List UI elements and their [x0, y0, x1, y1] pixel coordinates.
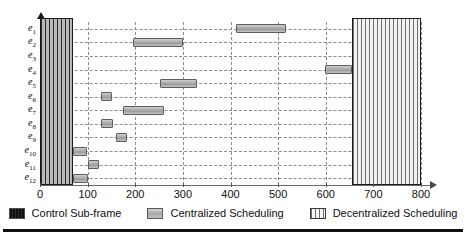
centralized-scheduling-bar — [101, 92, 112, 101]
plot-area — [40, 22, 421, 185]
control-subframe-block — [40, 18, 73, 185]
legend-item: Decentralized Scheduling — [310, 207, 458, 219]
x-axis-tick-label: 700 — [364, 188, 382, 200]
gantt-chart-figure: e1e2e3e4e5e6e7e8e9e10e11e12 010020030040… — [0, 0, 466, 236]
x-axis-tick-mark — [373, 183, 374, 187]
x-axis-tick-mark — [183, 183, 184, 187]
legend-item: Control Sub-frame — [9, 207, 122, 219]
grid-line-vertical — [326, 22, 327, 185]
x-axis-tick-mark — [326, 183, 327, 187]
grid-line-vertical — [278, 22, 279, 185]
x-axis-tick-mark — [421, 183, 422, 187]
y-axis-label-e12: e12 — [25, 172, 36, 186]
bottom-rule — [3, 229, 463, 232]
x-axis-tick-mark — [135, 183, 136, 187]
chart-legend: Control Sub-frameCentralized SchedulingD… — [0, 203, 466, 223]
centralized-scheduling-bar — [123, 106, 163, 115]
centralized-scheduling-bar — [88, 160, 99, 169]
x-axis-tick-mark — [88, 183, 89, 187]
x-axis-tick-label: 300 — [174, 188, 192, 200]
x-axis-tick-label: 0 — [37, 188, 43, 200]
centralized-swatch-icon — [147, 208, 163, 219]
control-swatch-icon — [9, 208, 25, 219]
x-axis-tick-label: 600 — [317, 188, 335, 200]
x-axis-tick-label: 200 — [126, 188, 144, 200]
centralized-scheduling-bar — [160, 79, 197, 88]
centralized-scheduling-bar — [116, 133, 127, 142]
centralized-scheduling-bar — [133, 38, 183, 47]
x-axis-tick-mark — [278, 183, 279, 187]
centralized-scheduling-bar — [73, 174, 87, 183]
decentralized-swatch-icon — [310, 208, 326, 219]
grid-line-vertical — [231, 22, 232, 185]
centralized-scheduling-bar — [73, 147, 86, 156]
grid-line-vertical — [183, 22, 184, 185]
centralized-scheduling-bar — [101, 119, 113, 128]
y-axis-label-e9: e9 — [28, 131, 36, 145]
centralized-scheduling-bar — [236, 24, 286, 33]
legend-label: Control Sub-frame — [32, 207, 122, 219]
x-axis-tick-label: 400 — [221, 188, 239, 200]
x-axis-tick-label: 500 — [269, 188, 287, 200]
legend-label: Centralized Scheduling — [170, 207, 283, 219]
y-axis-labels: e1e2e3e4e5e6e7e8e9e10e11e12 — [0, 0, 36, 236]
x-axis-tick-label: 800 — [412, 188, 430, 200]
legend-item: Centralized Scheduling — [147, 207, 283, 219]
grid-line-vertical — [421, 22, 422, 185]
decentralized-scheduling-block — [352, 18, 421, 185]
x-axis-arrow-icon — [430, 181, 437, 189]
x-axis-tick-label: 100 — [78, 188, 96, 200]
x-axis-tick-mark — [40, 183, 41, 187]
x-axis-tick-mark — [231, 183, 232, 187]
centralized-scheduling-bar — [325, 65, 352, 74]
legend-label: Decentralized Scheduling — [333, 207, 458, 219]
